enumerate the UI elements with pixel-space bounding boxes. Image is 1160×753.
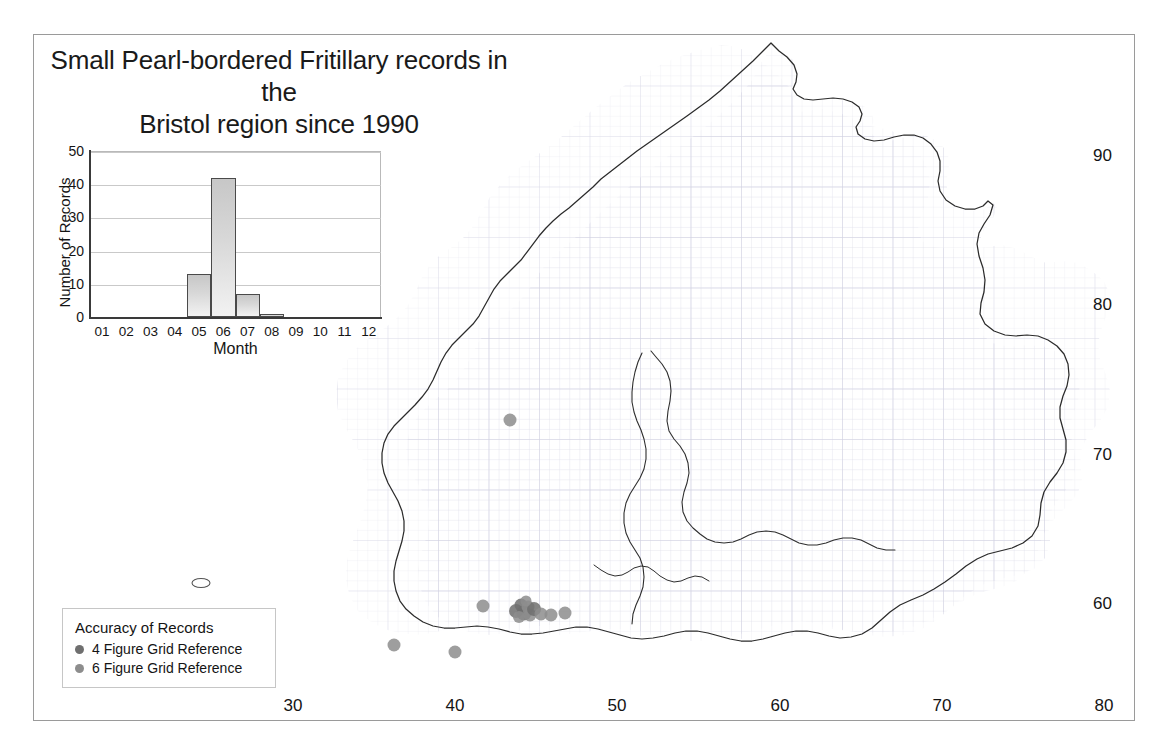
inset-x-tick: 12	[361, 324, 376, 339]
inset-x-tick: 06	[216, 324, 231, 339]
inset-x-axis-line	[89, 317, 382, 319]
title-line-2: Bristol region since 1990	[44, 108, 514, 140]
title-line-1: Small Pearl-bordered Fritillary records …	[51, 45, 508, 107]
legend-item: 6 Figure Grid Reference	[75, 660, 265, 676]
legend-items: 4 Figure Grid Reference6 Figure Grid Ref…	[73, 641, 265, 676]
inset-x-tick: 03	[143, 324, 158, 339]
map-y-tick: 80	[1093, 295, 1112, 315]
legend-title: Accuracy of Records	[75, 619, 265, 636]
map-y-tick: 60	[1093, 594, 1112, 614]
map-x-tick: 30	[284, 696, 303, 716]
inset-x-tick: 05	[192, 324, 207, 339]
inset-bar	[236, 294, 260, 317]
map-x-tick: 80	[1095, 696, 1114, 716]
inset-bar	[187, 274, 211, 317]
inset-y-axis-label: Number of Records	[56, 163, 73, 323]
inset-bars-layer	[90, 151, 381, 317]
inset-x-tick: 04	[167, 324, 182, 339]
inset-x-tick: 08	[264, 324, 279, 339]
page-title: Small Pearl-bordered Fritillary records …	[44, 44, 514, 140]
map-x-tick: 50	[608, 696, 627, 716]
map-x-tick: 60	[771, 696, 790, 716]
legend-item-label: 4 Figure Grid Reference	[92, 641, 242, 657]
legend-item-label: 6 Figure Grid Reference	[92, 660, 242, 676]
legend-item: 4 Figure Grid Reference	[75, 641, 265, 657]
inset-bar	[211, 178, 235, 317]
inset-x-tick: 10	[313, 324, 328, 339]
inset-x-tick: 09	[289, 324, 304, 339]
inset-x-tick: 02	[119, 324, 134, 339]
inset-x-axis-label: Month	[90, 340, 381, 358]
map-x-tick: 40	[446, 696, 465, 716]
inset-y-tick: 50	[50, 143, 84, 159]
island-shape	[192, 579, 210, 588]
inset-x-tick: 07	[240, 324, 255, 339]
inset-bar	[260, 314, 284, 317]
legend-dot-icon	[75, 645, 84, 654]
map-y-tick: 90	[1093, 146, 1112, 166]
legend-dot-icon	[75, 664, 84, 673]
map-legend: Accuracy of Records 4 Figure Grid Refere…	[62, 608, 276, 688]
map-y-tick: 70	[1093, 445, 1112, 465]
inset-x-tick: 11	[338, 324, 352, 339]
figure-root: Small Pearl-bordered Fritillary records …	[0, 0, 1160, 753]
map-x-tick: 70	[933, 696, 952, 716]
inset-x-tick: 01	[95, 324, 110, 339]
